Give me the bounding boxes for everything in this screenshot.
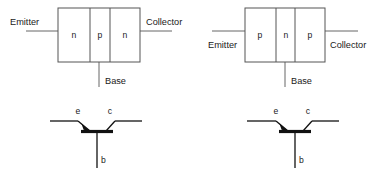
- pnp-symbol-collector-label: c: [306, 106, 311, 116]
- npn-emitter-label: Emitter: [10, 17, 39, 27]
- npn-symbol-base-label: b: [101, 155, 106, 165]
- pnp-region-label-emitter: p: [258, 30, 263, 40]
- pnp-symbol-emitter-label: e: [274, 106, 279, 116]
- pnp-structure-diagram: p n p Emitter Collector Base: [208, 8, 366, 87]
- pnp-region-label-collector: p: [308, 30, 313, 40]
- pnp-collector-label: Collector: [330, 40, 366, 50]
- pnp-emitter-label: Emitter: [208, 40, 237, 50]
- pnp-base-label: Base: [291, 76, 312, 86]
- npn-region-label-collector: n: [123, 30, 128, 40]
- npn-symbol-collector-diagonal: [106, 121, 115, 131]
- npn-symbol-diagram: e c b: [50, 106, 142, 168]
- pnp-symbol-base-label: b: [299, 155, 304, 165]
- npn-structure-diagram: n p n Emitter Collector Base: [10, 8, 182, 87]
- pnp-region-label-base: n: [284, 30, 289, 40]
- pnp-symbol-collector-diagonal: [303, 121, 312, 131]
- npn-base-label: Base: [105, 76, 126, 86]
- pnp-symbol-diagram: e c b: [247, 106, 339, 168]
- npn-region-label-base: p: [98, 30, 103, 40]
- transistor-figure: n p n Emitter Collector Base p n p: [0, 0, 383, 174]
- npn-symbol-emitter-label: e: [76, 106, 81, 116]
- figure-canvas: n p n Emitter Collector Base p n p: [0, 0, 383, 174]
- npn-collector-label: Collector: [146, 17, 182, 27]
- npn-region-label-emitter: n: [72, 30, 77, 40]
- npn-symbol-collector-label: c: [108, 106, 113, 116]
